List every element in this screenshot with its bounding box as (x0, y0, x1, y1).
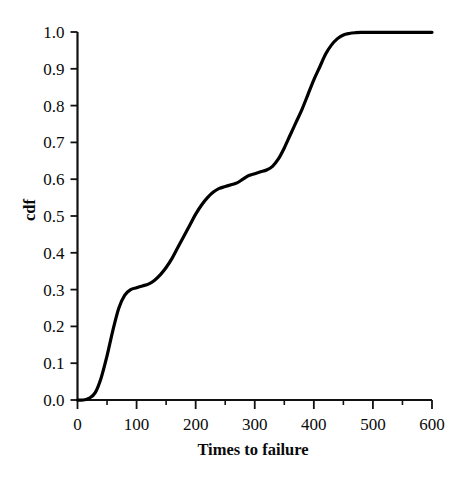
y-tick-label: 0.3 (43, 281, 64, 300)
x-tick-label: 500 (360, 415, 386, 434)
chart-figure: 0.00.10.20.30.40.50.60.70.80.91.0 010020… (0, 0, 467, 484)
x-tick-label: 600 (419, 415, 445, 434)
x-tick-label: 100 (124, 415, 150, 434)
x-tick-label: 0 (73, 415, 82, 434)
x-tick-label: 400 (301, 415, 327, 434)
y-tick-label: 0.5 (43, 207, 64, 226)
y-tick-label: 0.6 (43, 170, 64, 189)
y-tick-label: 0.9 (43, 60, 64, 79)
figure-background (0, 0, 467, 484)
x-tick-label: 200 (183, 415, 209, 434)
y-tick-label: 1.0 (43, 23, 64, 42)
y-tick-label: 0.0 (43, 391, 64, 410)
y-tick-label: 0.8 (43, 97, 64, 116)
x-tick-label: 300 (242, 415, 268, 434)
y-axis-title: cdf (20, 199, 39, 222)
y-tick-label: 0.2 (43, 317, 64, 336)
y-tick-label: 0.7 (43, 133, 65, 152)
y-tick-label: 0.4 (43, 244, 65, 263)
x-axis-title: Times to failure (197, 440, 308, 459)
chart-canvas: 0.00.10.20.30.40.50.60.70.80.91.0 010020… (0, 0, 467, 484)
y-tick-label: 0.1 (43, 354, 64, 373)
